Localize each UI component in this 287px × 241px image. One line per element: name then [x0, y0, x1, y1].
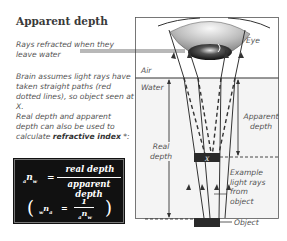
object-marker — [194, 218, 220, 227]
example-rays-label: Example light rays from object — [230, 168, 272, 206]
image-x-label: X — [204, 155, 210, 162]
object-label: Object — [234, 218, 259, 228]
water-label: Water — [141, 83, 164, 93]
apparent-depth-label: Apparent depth — [243, 112, 279, 131]
real-depth-label: Real depth — [148, 142, 174, 161]
air-label: Air — [141, 66, 151, 76]
eye-label: Eye — [246, 36, 260, 46]
